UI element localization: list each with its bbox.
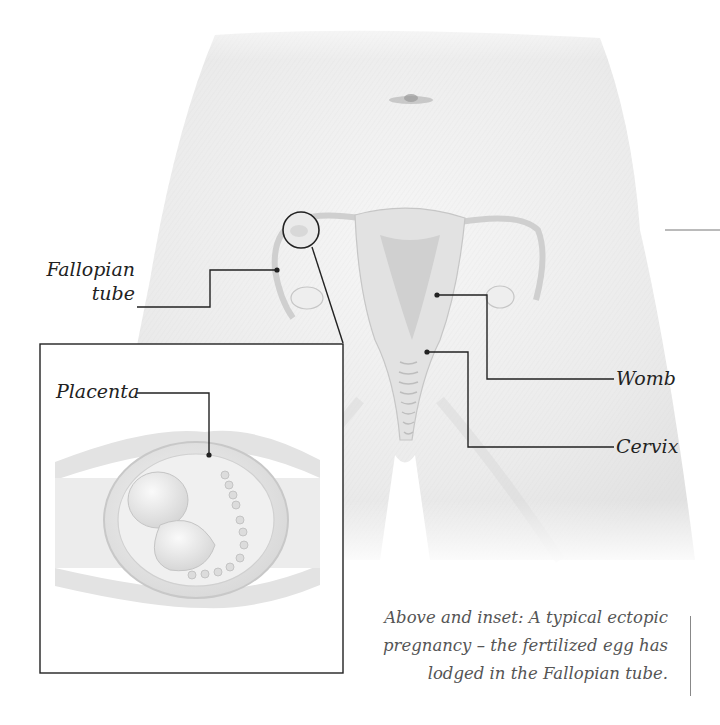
label-womb: Womb — [616, 367, 676, 389]
label-fallopian-line2: tube — [30, 282, 135, 304]
label-placenta: Placenta — [56, 380, 139, 402]
caption-line-3: lodged in the Fallopian tube. — [350, 660, 668, 688]
label-fallopian-tube: Fallopian tube — [30, 258, 135, 304]
label-cervix: Cervix — [616, 435, 678, 457]
caption-line-2: pregnancy – the fertilized egg has — [350, 632, 668, 660]
figure-caption: Above and inset: A typical ectopic pregn… — [350, 604, 668, 688]
caption-line-1: Above and inset: A typical ectopic — [350, 604, 668, 632]
caption-divider — [690, 616, 691, 696]
label-fallopian-line1: Fallopian — [30, 258, 135, 280]
